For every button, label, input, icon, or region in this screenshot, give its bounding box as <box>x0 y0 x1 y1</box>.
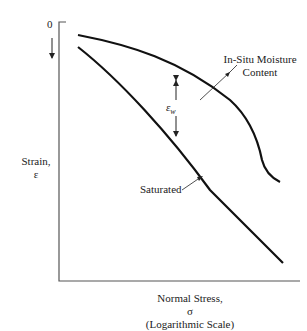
epsilon-w-label: εw <box>166 101 176 118</box>
in-situ-label-line2: Content <box>215 66 305 79</box>
y-axis-label: Strain, ε <box>16 155 56 181</box>
x-axis-label-line3: (Logarithmic Scale) <box>125 318 255 331</box>
x-axis-label: Normal Stress, σ (Logarithmic Scale) <box>125 292 255 331</box>
x-axis-label-line2: σ <box>125 305 255 318</box>
saturated-curve <box>78 47 283 263</box>
x-axis-label-line1: Normal Stress, <box>125 292 255 305</box>
in-situ-curve-label: In-Situ Moisture Content <box>215 53 305 79</box>
y-axis-label-line2: ε <box>16 168 56 181</box>
saturated-curve-label: Saturated <box>140 183 182 196</box>
in-situ-label-line1: In-Situ Moisture <box>215 53 305 66</box>
y-axis-label-line1: Strain, <box>16 155 56 168</box>
y-axis-origin-label: 0 <box>47 18 53 31</box>
